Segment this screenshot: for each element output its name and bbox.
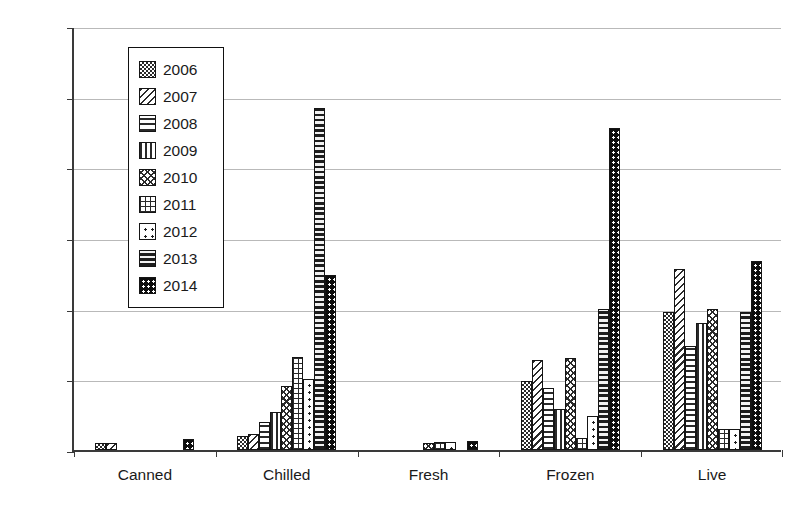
bar-frozen-2014 <box>609 128 620 450</box>
legend-item-2008[interactable]: 2008 <box>129 110 223 137</box>
legend-label: 2011 <box>163 197 196 213</box>
bar-group-fresh: Fresh <box>358 28 500 450</box>
legend-label: 2006 <box>163 62 197 78</box>
y-tick-mark <box>67 311 74 312</box>
legend-label: 2007 <box>163 89 197 105</box>
x-tick-mark <box>641 450 642 457</box>
bar-canned-2007 <box>106 443 117 450</box>
bar-live-2013 <box>740 312 751 451</box>
bar-chilled-2011 <box>292 357 303 450</box>
legend-swatch-icon <box>139 169 156 186</box>
bar-live-2007 <box>674 269 685 450</box>
legend-item-2006[interactable]: 2006 <box>129 56 223 83</box>
bar-live-2006 <box>663 312 674 451</box>
bar-chart-figure: Number of notifications 0102030405060 Ca… <box>0 0 789 507</box>
legend-swatch-icon <box>139 142 156 159</box>
x-tick-mark <box>358 450 359 457</box>
bar-fresh-2010 <box>423 443 434 450</box>
y-tick-mark <box>67 169 74 170</box>
legend-swatch-icon <box>139 88 156 105</box>
bar-chilled-2010 <box>281 386 292 450</box>
bars <box>499 28 641 450</box>
gridline <box>74 452 781 453</box>
legend-label: 2012 <box>163 224 197 240</box>
legend-label: 2014 <box>163 278 197 294</box>
bars <box>358 28 500 450</box>
bar-fresh-2014 <box>467 441 478 450</box>
legend-swatch-icon <box>139 61 156 78</box>
bar-chilled-2008 <box>259 422 270 450</box>
x-tick-label-canned: Canned <box>74 466 216 484</box>
bar-live-2010 <box>707 309 718 450</box>
y-axis-title: Number of notifications <box>0 0 26 28</box>
x-tick-mark <box>74 450 75 457</box>
legend-item-2011[interactable]: 2011 <box>129 191 223 218</box>
x-tick-label-frozen: Frozen <box>499 466 641 484</box>
x-tick-label-live: Live <box>641 466 783 484</box>
bar-fresh-2011 <box>434 442 445 450</box>
bar-canned-2014 <box>183 439 194 450</box>
y-tick-mark <box>67 28 74 29</box>
x-tick-mark <box>499 450 500 457</box>
bar-chilled-2014 <box>325 275 336 450</box>
legend-label: 2009 <box>163 143 197 159</box>
y-tick-mark <box>67 452 74 453</box>
bar-live-2012 <box>729 429 740 450</box>
bar-frozen-2013 <box>598 309 609 450</box>
y-tick-mark <box>67 381 74 382</box>
legend-swatch-icon <box>139 196 156 213</box>
bar-live-2008 <box>685 346 696 450</box>
legend-label: 2010 <box>163 170 197 186</box>
legend: 200620072008200920102011201220132014 <box>128 47 224 308</box>
bars <box>216 28 358 450</box>
bar-live-2009 <box>696 323 707 450</box>
bar-canned-2006 <box>95 443 106 450</box>
bar-group-chilled: Chilled <box>216 28 358 450</box>
y-tick-mark <box>67 240 74 241</box>
bar-live-2011 <box>718 429 729 450</box>
legend-swatch-icon <box>139 277 156 294</box>
bar-group-frozen: Frozen <box>499 28 641 450</box>
bar-chilled-2013 <box>314 108 325 450</box>
legend-label: 2008 <box>163 116 197 132</box>
y-tick-mark <box>67 99 74 100</box>
legend-item-2010[interactable]: 2010 <box>129 164 223 191</box>
bars <box>641 28 783 450</box>
legend-item-2007[interactable]: 2007 <box>129 83 223 110</box>
x-tick-mark <box>782 450 783 457</box>
x-tick-label-chilled: Chilled <box>216 466 358 484</box>
legend-item-2009[interactable]: 2009 <box>129 137 223 164</box>
x-tick-mark <box>216 450 217 457</box>
legend-swatch-icon <box>139 115 156 132</box>
bar-frozen-2011 <box>576 438 587 450</box>
legend-swatch-icon <box>139 250 156 267</box>
bar-fresh-2012 <box>445 442 456 450</box>
bar-frozen-2012 <box>587 416 598 450</box>
bar-group-live: Live <box>641 28 783 450</box>
bar-chilled-2012 <box>303 379 314 450</box>
bar-frozen-2009 <box>554 409 565 450</box>
legend-item-2013[interactable]: 2013 <box>129 245 223 272</box>
legend-label: 2013 <box>163 251 197 267</box>
bar-live-2014 <box>751 261 762 450</box>
x-tick-label-fresh: Fresh <box>358 466 500 484</box>
legend-swatch-icon <box>139 223 156 240</box>
bar-frozen-2007 <box>532 360 543 450</box>
bar-frozen-2010 <box>565 358 576 450</box>
bar-frozen-2008 <box>543 388 554 450</box>
bar-chilled-2006 <box>237 436 248 450</box>
bar-chilled-2007 <box>248 434 259 450</box>
bar-chilled-2009 <box>270 412 281 450</box>
legend-item-2014[interactable]: 2014 <box>129 272 223 299</box>
legend-item-2012[interactable]: 2012 <box>129 218 223 245</box>
bar-frozen-2006 <box>521 381 532 450</box>
